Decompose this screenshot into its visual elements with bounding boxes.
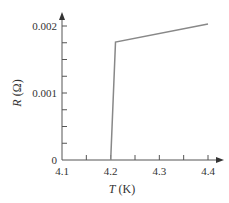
- x-tick-label: 4.4: [201, 165, 215, 177]
- x-axis-arrow-icon: [216, 157, 224, 163]
- x-tick-label: 4.1: [55, 165, 69, 177]
- y-tick-label: 0.002: [32, 20, 57, 32]
- y-tick-label: 0.001: [32, 87, 57, 99]
- x-axis-label: T (K): [109, 182, 135, 196]
- data-line: [111, 24, 208, 160]
- y-axis-label: R (Ω): [10, 79, 24, 107]
- y-axis: [59, 12, 67, 160]
- x-tick-label: 4.2: [104, 165, 118, 177]
- x-axis: [62, 155, 224, 163]
- x-tick-label: 4.3: [152, 165, 166, 177]
- y-tick-label: 0: [52, 154, 58, 166]
- chart: 4.14.24.34.400.0010.002 T (K) R (Ω): [0, 0, 229, 203]
- y-axis-arrow-icon: [59, 12, 65, 20]
